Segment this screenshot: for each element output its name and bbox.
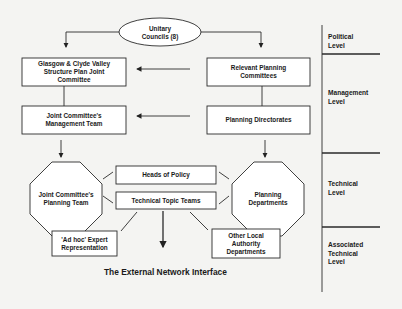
planning-directorates-label: Planning Directorates: [207, 106, 310, 134]
text: Councils (8): [142, 33, 179, 40]
level-management: ManagementLevel: [328, 89, 368, 106]
text: Political: [328, 33, 353, 40]
text: Relevant Planning: [231, 64, 286, 71]
joint-mgmt-label: Joint Committee'sManagement Team: [22, 106, 126, 134]
link: [121, 212, 137, 231]
link: [219, 196, 229, 204]
link: [219, 172, 229, 179]
text: Level: [328, 98, 345, 105]
link: [103, 196, 113, 203]
text: Committees: [240, 72, 277, 79]
link: [103, 172, 113, 179]
text: Departments: [226, 248, 265, 255]
text: Technical Topic Teams: [132, 197, 201, 205]
text: Management Team: [45, 120, 102, 127]
text: 'Ad hoc' Expert: [61, 236, 107, 243]
text: Authority: [232, 240, 260, 247]
planning-departments-label: PlanningDepartments: [232, 162, 304, 236]
connector-unitary-left: [66, 32, 119, 47]
level-political: PoliticalLevel: [328, 33, 353, 50]
joint-planning-team-label: Joint Committee'sPlanning Team: [30, 162, 102, 236]
diagram-title: The External Network Interface: [104, 267, 227, 277]
text: Representation: [61, 244, 108, 251]
text: Management: [328, 89, 368, 96]
glasgow-label: Glasgow & Clyde ValleyStructure Plan Joi…: [22, 58, 126, 86]
text: Level: [328, 42, 345, 49]
link: [190, 212, 208, 230]
heads-of-policy-label: Heads of Policy: [116, 166, 216, 184]
text: Unitary: [149, 25, 171, 32]
level-associated-technical: AssociatedTechnicalLevel: [328, 241, 363, 267]
text: Planning Directorates: [225, 116, 291, 124]
technical-topic-teams-label: Technical Topic Teams: [116, 192, 216, 209]
unitary-councils-label: UnitaryCouncils (8): [120, 22, 200, 44]
text: Heads of Policy: [142, 171, 190, 179]
text: Planning: [255, 191, 282, 198]
connector-unitary-right: [201, 32, 261, 47]
text: Committee: [57, 76, 90, 83]
level-technical: TechnicalLevel: [328, 180, 358, 197]
text: Associated: [328, 241, 363, 248]
text: Joint Committee's: [38, 191, 93, 198]
text: Joint Committee's: [46, 112, 101, 119]
text: Level: [328, 189, 345, 196]
text: Planning Team: [44, 199, 89, 206]
relevant-planning-label: Relevant PlanningCommittees: [207, 58, 310, 86]
other-local-label: Other LocalAuthorityDepartments: [212, 229, 280, 258]
text: Other Local: [228, 232, 264, 239]
text: Technical: [328, 250, 358, 257]
text: Structure Plan Joint: [44, 68, 105, 75]
text: Departments: [248, 199, 287, 206]
text: Glasgow & Clyde Valley: [38, 60, 110, 67]
text: Technical: [328, 180, 358, 187]
adhoc-label: 'Ad hoc' ExpertRepresentation: [52, 231, 117, 256]
text: Level: [328, 258, 345, 265]
